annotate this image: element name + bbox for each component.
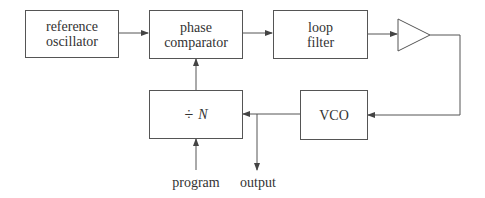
phase-comparator-line1: phase (180, 20, 212, 35)
divider-variable-n: N (198, 107, 207, 122)
divide-symbol: ÷ (184, 107, 193, 122)
reference-oscillator-line2: oscillator (46, 34, 98, 49)
arrow-amp-to-vco (368, 35, 460, 115)
output-label: output (232, 175, 284, 190)
amplifier-icon (398, 19, 430, 51)
phase-comparator-block: phase comparator (149, 10, 243, 59)
reference-oscillator-block: reference oscillator (25, 10, 119, 58)
phase-comparator-line2: comparator (164, 35, 228, 50)
reference-oscillator-line1: reference (46, 19, 98, 34)
divider-block: ÷ N (149, 90, 243, 139)
loop-filter-line2: filter (307, 35, 334, 50)
program-label: program (166, 175, 226, 190)
loop-filter-block: loop filter (273, 10, 368, 59)
vco-label: VCO (319, 108, 349, 123)
loop-filter-line1: loop (308, 20, 333, 35)
vco-block: VCO (300, 90, 368, 140)
